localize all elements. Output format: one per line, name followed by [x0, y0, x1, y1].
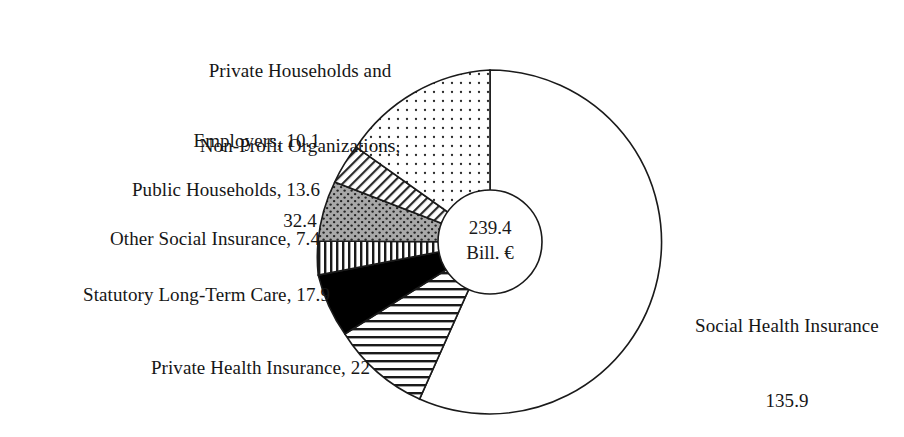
slice-label-public-households: Public Households, 13.6 — [40, 177, 320, 202]
center-total-unit: Bill. € — [443, 240, 537, 265]
slice-label-statutory-long-term-care: Statutory Long-Term Care, 17.9 — [0, 282, 330, 307]
slice-label-social-health-insurance: Social Health Insurance 135.9 — [672, 263, 902, 437]
pie-chart: 239.4 Bill. € Private Households and Non… — [0, 0, 904, 437]
slice-label-employers: Employers, 10.1 — [60, 128, 320, 153]
center-total-callout: 239.4 Bill. € — [443, 215, 537, 265]
slice-label-line-1: Private Households and — [160, 58, 440, 83]
slice-label-line-1: Social Health Insurance — [672, 313, 902, 338]
center-total-value: 239.4 — [443, 215, 537, 240]
slice-label-line-2: 135.9 — [672, 388, 902, 413]
slice-label-other-social-insurance: Other Social Insurance, 7.4 — [20, 226, 320, 251]
slice-label-private-health-insurance: Private Health Insurance, 22 — [0, 355, 370, 380]
